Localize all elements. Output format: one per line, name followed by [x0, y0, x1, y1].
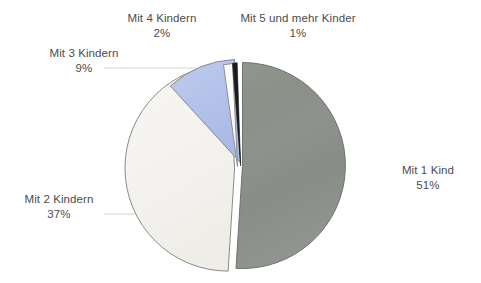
pie-label-value-mit-3-kindern: 9%	[26, 61, 142, 76]
pie-label-mit-1-kind: Mit 1 Kind 51%	[382, 163, 474, 193]
pie-label-value-mit-2-kindern: 37%	[0, 207, 118, 222]
pie-slice-mit-1-kind[interactable]	[236, 63, 345, 269]
pie-label-name-mit-4-kindern: Mit 4 Kindern	[104, 11, 220, 26]
pie-label-name-mit-1-kind: Mit 1 Kind	[382, 163, 474, 178]
pie-chart: Mit 4 Kindern 2% Mit 5 und mehr Kinder 1…	[0, 0, 481, 283]
pie-label-name-mit-3-kindern: Mit 3 Kindern	[26, 46, 142, 61]
pie-label-value-mit-4-kindern: 2%	[104, 26, 220, 41]
pie-label-name-mit-5-und-mehr-kinder: Mit 5 und mehr Kinder	[224, 11, 372, 26]
pie-label-name-mit-2-kindern: Mit 2 Kindern	[0, 192, 118, 207]
pie-label-mit-4-kindern: Mit 4 Kindern 2%	[104, 11, 220, 41]
pie-chart-canvas	[0, 0, 481, 283]
pie-label-value-mit-1-kind: 51%	[382, 178, 474, 193]
pie-label-mit-5-und-mehr-kinder: Mit 5 und mehr Kinder 1%	[224, 11, 372, 41]
pie-label-mit-3-kindern: Mit 3 Kindern 9%	[26, 46, 142, 76]
pie-label-mit-2-kindern: Mit 2 Kindern 37%	[0, 192, 118, 222]
pie-label-value-mit-5-und-mehr-kinder: 1%	[224, 26, 372, 41]
